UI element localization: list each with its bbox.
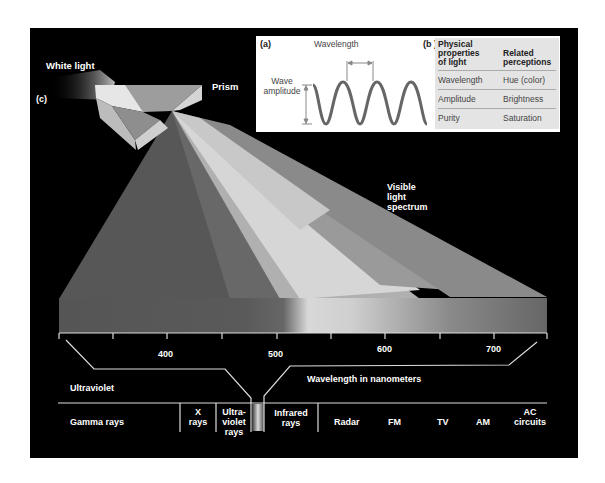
cell-property: Wavelength	[438, 75, 483, 85]
visible-spectrum-line-1: Visible	[387, 182, 428, 192]
band-am: AM	[476, 417, 490, 427]
visible-spectrum-label: Visible light spectrum	[387, 182, 428, 212]
table-row: Amplitude Brightness	[438, 89, 556, 108]
wave-properties-panel: (a) Wavelength Wave amplitude (b ) Physi…	[256, 36, 560, 132]
band-infrared-line-1: Infrared	[264, 408, 318, 418]
panel-c-tag: (c)	[36, 94, 47, 104]
band-uv-line-1: Ultra-	[216, 407, 252, 417]
visible-band	[252, 404, 264, 431]
band-ac-circuits: AC circuits	[508, 407, 552, 427]
header-right-line-2: perceptions	[503, 58, 551, 67]
header-related-perceptions: Related perceptions	[503, 49, 551, 67]
band-x-rays-line-1: X	[180, 407, 216, 417]
band-radar: Radar	[334, 417, 360, 427]
table-row: Purity Saturation	[438, 108, 556, 127]
ultraviolet-label: Ultraviolet	[70, 383, 114, 393]
visible-spectrum-line-2: light	[387, 192, 428, 202]
band-infrared-rays: Infrared rays	[264, 408, 318, 428]
axis-tick-600: 600	[377, 344, 392, 354]
band-ultraviolet-rays: Ultra- violet rays	[216, 407, 252, 437]
cell-perception: Saturation	[503, 113, 542, 123]
header-left-line-3: of light	[438, 58, 480, 67]
band-fm: FM	[388, 417, 401, 427]
band-infrared-line-2: rays	[264, 418, 318, 428]
sine-wave	[313, 82, 427, 124]
wavelength-nm-label: Wavelength in nanometers	[307, 374, 421, 384]
band-gamma-rays: Gamma rays	[70, 417, 124, 427]
prism-label: Prism	[212, 82, 238, 92]
band-tv: TV	[437, 417, 449, 427]
axis-tick-400: 400	[158, 349, 173, 359]
visible-spectrum-line-3: spectrum	[387, 202, 428, 212]
header-physical-properties: Physical properties of light	[438, 40, 480, 67]
properties-table: Physical properties of light Related per…	[435, 38, 559, 129]
white-light-label: White light	[46, 61, 95, 71]
band-ac-line-1: AC	[508, 407, 552, 417]
spectrum-front-face	[59, 298, 547, 333]
band-uv-line-2: violet	[216, 417, 252, 427]
band-x-rays: X rays	[180, 407, 216, 427]
sine-wave-diagram	[256, 36, 436, 132]
cell-property: Purity	[438, 113, 460, 123]
band-x-rays-line-2: rays	[180, 417, 216, 427]
axis-tick-700: 700	[486, 344, 501, 354]
cell-perception: Hue (color)	[503, 75, 545, 85]
axis-tick-500: 500	[268, 349, 283, 359]
band-ac-line-2: circuits	[508, 417, 552, 427]
cell-perception: Brightness	[503, 94, 543, 104]
cell-property: Amplitude	[438, 94, 476, 104]
table-row: Wavelength Hue (color)	[438, 70, 556, 89]
band-uv-line-3: rays	[216, 427, 252, 437]
